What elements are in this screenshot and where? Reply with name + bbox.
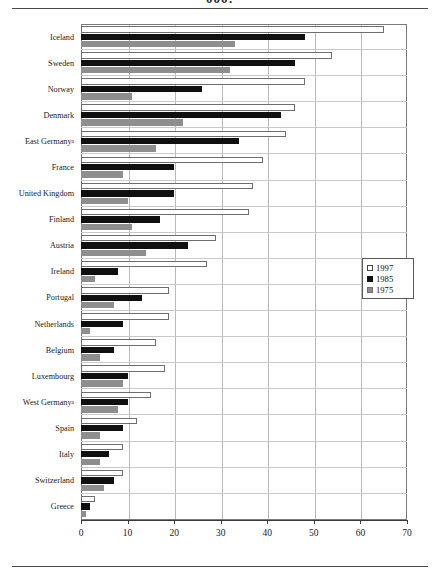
x-axis-line [81,520,408,521]
footnote-marker: a [72,399,74,405]
y-axis-label-switzerland: Switzerland [0,468,78,494]
x-tick-label-30: 30 [201,528,241,538]
bar-row [81,154,407,180]
y-axis-label-greece: Greece [0,494,78,520]
bar-row [81,181,407,207]
y-axis-label-west-germany: West Germanya [0,389,78,415]
x-tick-70 [407,520,408,524]
legend-swatch-1975-icon [367,287,373,293]
bar-row [81,259,407,285]
y-axis-label-text: East Germany [25,137,72,146]
bar-portugal-1975 [81,302,114,308]
bar-west-germany-1997 [81,392,151,398]
y-axis-label-east-germany: East Germanya [0,128,78,154]
x-tick-0 [81,520,82,524]
bar-west-germany-1985 [81,399,128,405]
x-tick-label-20: 20 [154,528,194,538]
bar-west-germany-1975 [81,406,118,412]
chart-page: 000: IcelandSwedenNorwayDenmarkEast Germ… [0,0,440,575]
x-tick-20 [174,520,175,524]
bar-iceland-1975 [81,41,235,47]
bar-east-germany-1997 [81,131,286,137]
bar-austria-1985 [81,242,188,248]
bar-greece-1997 [81,496,95,502]
bar-norway-1975 [81,93,132,99]
footnote-marker: a [72,138,74,144]
x-tick-label-60: 60 [340,528,380,538]
bar-iceland-1997 [81,26,384,32]
bar-row [81,442,407,468]
legend-label-1985: 1985 [376,274,393,284]
x-tick-label-50: 50 [294,528,334,538]
bar-united-kingdom-1997 [81,183,253,189]
bar-norway-1997 [81,78,305,84]
bar-belgium-1997 [81,339,156,345]
bar-switzerland-1975 [81,485,104,491]
bar-portugal-1985 [81,295,142,301]
y-axis-label-belgium: Belgium [0,337,78,363]
legend-item-1997: 1997 [367,262,409,273]
x-tick-label-40: 40 [247,528,287,538]
bar-belgium-1975 [81,354,100,360]
bar-netherlands-1997 [81,313,169,319]
bar-row [81,337,407,363]
legend-item-1975: 1975 [367,284,409,295]
bar-portugal-1997 [81,287,169,293]
bar-luxembourg-1985 [81,373,128,379]
bar-greece-1975 [81,511,86,517]
bar-switzerland-1997 [81,470,123,476]
bar-denmark-1997 [81,104,295,110]
bar-denmark-1975 [81,119,183,125]
y-axis-label-denmark: Denmark [0,102,78,128]
legend-item-1985: 1985 [367,273,409,284]
bar-spain-1975 [81,432,100,438]
bar-sweden-1975 [81,67,230,73]
y-axis-label-finland: Finland [0,207,78,233]
bar-ireland-1985 [81,268,118,274]
x-tick-30 [221,520,222,524]
bar-finland-1975 [81,224,132,230]
bar-rows [81,24,407,520]
x-tick-10 [128,520,129,524]
bar-netherlands-1985 [81,321,123,327]
bar-belgium-1985 [81,347,114,353]
x-tick-50 [314,520,315,524]
x-tick-label-0: 0 [61,528,101,538]
bar-ireland-1975 [81,276,95,282]
cropped-caption: 000: [0,0,440,3]
bar-east-germany-1985 [81,138,239,144]
bar-row [81,207,407,233]
x-tick-60 [360,520,361,524]
bar-italy-1985 [81,451,109,457]
bar-east-germany-1975 [81,145,156,151]
x-tick-label-70: 70 [387,528,427,538]
bar-switzerland-1985 [81,477,114,483]
bar-row [81,389,407,415]
bar-austria-1975 [81,250,146,256]
bar-row [81,50,407,76]
bar-france-1985 [81,164,174,170]
cropped-caption-text: 000: [0,0,440,3]
bar-sweden-1997 [81,52,332,58]
bar-row [81,415,407,441]
bar-italy-1975 [81,459,100,465]
y-axis-label-ireland: Ireland [0,259,78,285]
bar-spain-1997 [81,418,137,424]
bar-row [81,128,407,154]
bar-united-kingdom-1975 [81,198,128,204]
y-axis-label-portugal: Portugal [0,285,78,311]
bar-ireland-1997 [81,261,207,267]
bar-united-kingdom-1985 [81,190,174,196]
bar-finland-1985 [81,216,160,222]
x-tick-label-10: 10 [108,528,148,538]
bar-netherlands-1975 [81,328,90,334]
bar-row [81,285,407,311]
legend-label-1997: 1997 [376,263,393,273]
y-axis-label-austria: Austria [0,233,78,259]
legend-label-1975: 1975 [376,285,393,295]
bar-row [81,102,407,128]
y-axis-label-sweden: Sweden [0,50,78,76]
bar-row [81,468,407,494]
bar-austria-1997 [81,235,216,241]
bar-france-1997 [81,157,263,163]
